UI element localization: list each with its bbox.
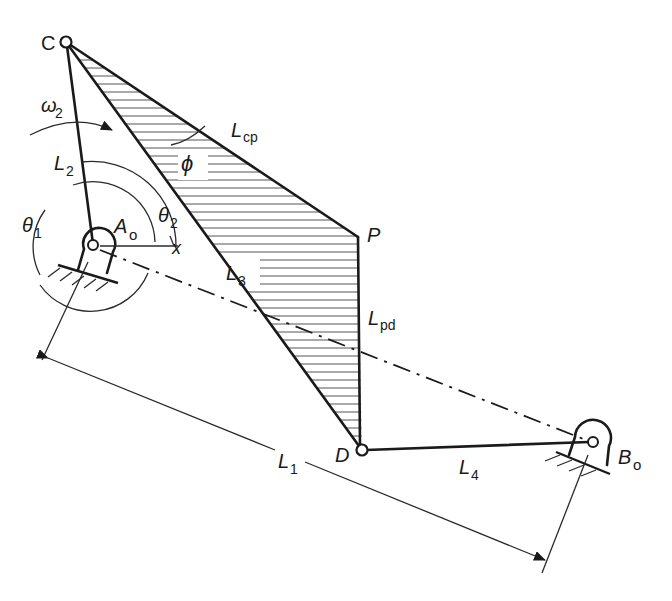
svg-text:2: 2: [55, 105, 63, 121]
svg-text:cp: cp: [243, 129, 258, 145]
svg-text:L: L: [226, 262, 237, 284]
l1-dimension: [42, 262, 588, 573]
svg-text:θ: θ: [158, 204, 169, 226]
label-p: P: [367, 224, 381, 246]
label-omega2: ω 2: [41, 94, 63, 121]
svg-text:pd: pd: [380, 317, 396, 333]
svg-text:L: L: [459, 456, 470, 478]
label-theta1: θ 1: [22, 214, 42, 241]
coupler-hatching: [40, 60, 380, 444]
label-l4: L 4: [459, 456, 479, 483]
svg-text:L: L: [231, 119, 242, 141]
svg-text:1: 1: [290, 461, 298, 477]
svg-text:3: 3: [238, 273, 246, 289]
phi-arc: [171, 126, 205, 145]
label-b0: B o: [618, 446, 641, 473]
svg-text:o: o: [129, 226, 137, 243]
svg-text:4: 4: [471, 467, 479, 483]
omega2-arrow-arc: [30, 122, 112, 135]
label-l1: L 1: [278, 450, 298, 477]
svg-text:o: o: [633, 456, 641, 473]
label-d: D: [335, 444, 349, 466]
label-theta2: θ 2: [158, 204, 178, 231]
coupler-edge-cp: [66, 42, 358, 237]
ground-pivot-b0: [545, 420, 611, 476]
label-a0: A o: [113, 215, 137, 243]
label-x-axis: x: [171, 238, 182, 258]
svg-text:2: 2: [66, 163, 74, 179]
ground-pivot-a0: [48, 228, 118, 291]
svg-text:A: A: [113, 215, 127, 237]
svg-text:ϕ: ϕ: [181, 151, 193, 176]
svg-text:L: L: [54, 152, 65, 174]
svg-text:x: x: [171, 238, 182, 258]
svg-text:L: L: [278, 450, 289, 472]
svg-text:P: P: [367, 224, 381, 246]
label-l2: L 2: [54, 152, 74, 179]
svg-text:1: 1: [34, 225, 42, 241]
joint-c: [61, 37, 72, 48]
svg-text:C: C: [41, 32, 55, 54]
joint-d: [357, 445, 368, 456]
svg-text:2: 2: [170, 215, 178, 231]
label-lpd: L pd: [368, 307, 396, 333]
rocker-link-l4: [366, 442, 589, 450]
coupler-edge-pd: [358, 237, 360, 444]
label-phi: ϕ: [181, 151, 193, 176]
svg-text:D: D: [335, 444, 349, 466]
svg-text:L: L: [368, 307, 379, 329]
label-c: C: [41, 32, 55, 54]
svg-text:θ: θ: [22, 214, 33, 236]
svg-text:B: B: [618, 446, 631, 468]
four-bar-linkage-diagram: C A o P D B o L 1 L 2 L 3 L 4 L cp L pd …: [0, 0, 672, 601]
label-lcp: L cp: [231, 119, 258, 145]
